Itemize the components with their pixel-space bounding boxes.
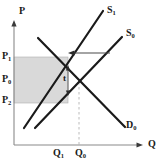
chart-canvas <box>0 0 161 164</box>
tax-revenue-shaded-region <box>14 57 68 103</box>
curve-label-d0: D0 <box>126 120 136 130</box>
quantity-tick-q0: Q0 <box>75 148 86 158</box>
price-tick-p2: P2 <box>2 95 11 105</box>
y-axis-arrowhead <box>11 20 16 27</box>
curve-label-s0-sub: 0 <box>132 32 135 39</box>
price-tick-p0-sub: 0 <box>8 78 11 85</box>
y-axis-label: P <box>19 6 25 16</box>
x-axis-label: Q <box>148 139 156 149</box>
quantity-tick-q1: Q1 <box>53 148 64 158</box>
curve-label-d0-sub: 0 <box>133 124 136 131</box>
supply-demand-tax-diagram: P Q P1 P0 P2 Q1 Q0 S1 S0 D0 t <box>0 0 161 164</box>
tax-wedge-label: t <box>63 74 66 83</box>
curve-label-s0-base: S <box>126 27 132 38</box>
price-tick-p0: P0 <box>2 74 11 84</box>
quantity-tick-q1-base: Q <box>53 147 61 158</box>
curve-label-s1: S1 <box>107 5 116 15</box>
curve-label-s0: S0 <box>126 28 135 38</box>
price-tick-p1-sub: 1 <box>8 55 11 62</box>
price-tick-p1: P1 <box>2 51 11 61</box>
quantity-tick-q0-base: Q <box>75 147 83 158</box>
supply-shift-arrow-head <box>68 50 75 55</box>
quantity-tick-q1-sub: 1 <box>61 152 64 159</box>
quantity-tick-q0-sub: 0 <box>83 152 86 159</box>
x-axis-arrowhead <box>137 142 144 147</box>
price-tick-p2-sub: 2 <box>8 99 11 106</box>
curve-label-s1-sub: 1 <box>113 9 116 16</box>
curve-label-s1-base: S <box>107 4 113 15</box>
